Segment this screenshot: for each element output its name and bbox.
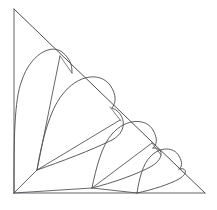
figure-background — [0, 0, 217, 210]
figure-canvas: Recursive spiral of heart-shaped arcs in… — [0, 0, 217, 210]
geometric-figure — [0, 0, 217, 210]
